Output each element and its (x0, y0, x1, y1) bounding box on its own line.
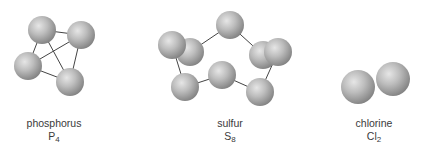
chlorine-label: chlorine Cl2 (334, 117, 414, 146)
atom-sphere (14, 52, 42, 80)
sulfur-label: sulfur S8 (190, 117, 270, 146)
atom-sphere (67, 21, 95, 49)
sulfur-molecule (158, 11, 292, 106)
atom-sphere (171, 73, 199, 101)
sulfur-name: sulfur (190, 117, 270, 130)
atom-sphere (246, 78, 274, 106)
atom-sphere (158, 31, 186, 59)
chlorine-molecule (341, 62, 410, 104)
atom-sphere (56, 68, 84, 96)
chlorine-formula: Cl2 (334, 130, 414, 146)
phosphorus-formula: P4 (14, 130, 94, 146)
atom-sphere (216, 11, 244, 39)
atom-sphere (376, 62, 410, 96)
atom-sphere (264, 38, 292, 66)
atom-sphere (341, 70, 375, 104)
chlorine-name: chlorine (334, 117, 414, 130)
atom-sphere (28, 16, 56, 44)
phosphorus-molecule (14, 16, 95, 96)
phosphorus-name: phosphorus (14, 117, 94, 130)
sulfur-formula: S8 (190, 130, 270, 146)
atom-sphere (208, 61, 236, 89)
phosphorus-label: phosphorus P4 (14, 117, 94, 146)
